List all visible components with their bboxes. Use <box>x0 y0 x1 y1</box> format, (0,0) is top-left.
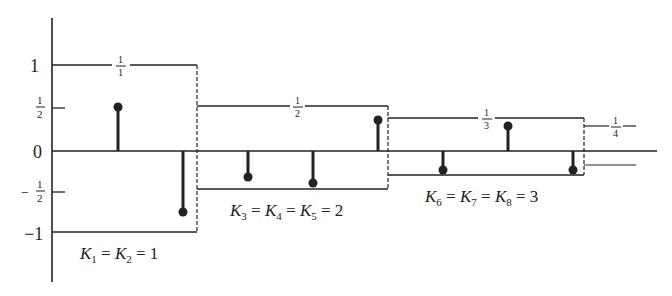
stem-7 <box>504 122 513 152</box>
stem-1 <box>114 103 123 152</box>
group-1-box <box>52 65 197 232</box>
svg-text:1: 1 <box>484 107 489 118</box>
svg-text:4: 4 <box>613 128 618 139</box>
fraction-1-2: 1 2 <box>293 95 303 119</box>
fraction-1-3: 1 3 <box>482 107 492 131</box>
stem-8 <box>569 151 578 175</box>
svg-text:2: 2 <box>37 192 43 204</box>
svg-text:3: 3 <box>484 120 489 131</box>
group-2-box <box>197 106 388 189</box>
stem-6 <box>439 151 448 175</box>
stem-4 <box>309 151 318 188</box>
y-label-neg-1: −1 <box>24 224 43 244</box>
fraction-1-4: 1 4 <box>611 115 621 139</box>
group-4-box <box>584 126 636 165</box>
svg-text:1: 1 <box>37 178 43 190</box>
caption-group-3: K6 = K7 = K8 = 3 <box>424 187 538 208</box>
stem-2 <box>179 151 188 217</box>
svg-text:2: 2 <box>37 108 43 120</box>
svg-text:1: 1 <box>118 54 123 65</box>
y-label-0: 0 <box>33 142 42 162</box>
quantization-diagram: 1 1 2 0 − 1 2 −1 1 1 1 2 1 3 1 4 K1 = K2… <box>0 0 672 296</box>
y-label-half: 1 2 <box>36 94 45 120</box>
stem-5 <box>374 116 383 152</box>
y-label-1: 1 <box>30 56 39 76</box>
svg-text:1: 1 <box>37 94 43 106</box>
svg-text:2: 2 <box>295 108 300 119</box>
caption-group-2: K3 = K4 = K5 = 2 <box>229 201 343 222</box>
svg-text:1: 1 <box>118 67 123 78</box>
stem-3 <box>244 151 253 182</box>
y-label-neg-half: − 1 2 <box>21 178 45 204</box>
svg-text:−: − <box>21 185 29 200</box>
svg-text:1: 1 <box>295 95 300 106</box>
svg-text:1: 1 <box>613 115 618 126</box>
caption-group-1: K1 = K2 = 1 <box>79 244 158 265</box>
fraction-1-1: 1 1 <box>116 54 126 78</box>
